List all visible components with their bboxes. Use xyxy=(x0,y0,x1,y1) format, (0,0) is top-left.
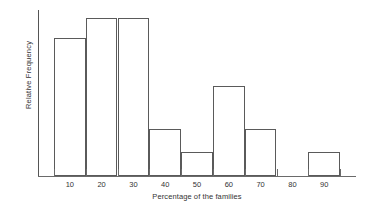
x-axis-tick xyxy=(181,169,182,176)
plot-area xyxy=(38,10,356,177)
x-axis-tick-label: 30 xyxy=(119,179,147,191)
x-axis-tick xyxy=(86,169,87,176)
histogram-bar xyxy=(118,18,150,176)
x-axis-tick xyxy=(54,169,55,176)
x-axis-tick-label: 20 xyxy=(88,179,116,191)
x-axis-tick-label: 90 xyxy=(310,179,338,191)
x-axis-tick-label: 50 xyxy=(183,179,211,191)
x-axis-tick-label: 60 xyxy=(215,179,243,191)
x-axis-tick xyxy=(340,169,341,176)
histogram-figure: Relative Frequency 102030405060708090 Pe… xyxy=(0,0,377,215)
x-axis-label: Percentage of the families xyxy=(38,192,356,201)
x-axis-tick xyxy=(277,169,278,176)
x-axis-tick xyxy=(149,169,150,176)
x-axis-tick-label: 10 xyxy=(56,179,84,191)
x-axis-tick xyxy=(308,169,309,176)
x-axis-tick-label: 80 xyxy=(278,179,306,191)
x-axis-tick-label: 40 xyxy=(151,179,179,191)
histogram-bar xyxy=(86,18,118,176)
x-axis-tick xyxy=(213,169,214,176)
x-axis-tick-marks xyxy=(38,169,356,176)
x-axis-tick xyxy=(118,169,119,176)
bars-layer xyxy=(38,10,356,176)
histogram-bar xyxy=(54,38,86,176)
x-axis-spine xyxy=(38,176,356,177)
histogram-bar xyxy=(213,86,245,176)
y-axis-label: Relative Frequency xyxy=(22,0,36,155)
x-axis-tick-labels: 102030405060708090 xyxy=(38,179,356,191)
x-axis-tick-label: 70 xyxy=(247,179,275,191)
x-axis-tick xyxy=(245,169,246,176)
